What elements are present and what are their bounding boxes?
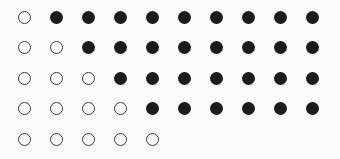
open-circle-marker <box>114 102 127 115</box>
filled-circle-marker <box>210 72 223 85</box>
filled-circle-marker <box>306 102 319 115</box>
filled-circle-marker <box>242 72 255 85</box>
filled-circle-marker <box>146 41 159 54</box>
open-circle-marker <box>18 11 31 24</box>
filled-circle-marker <box>242 41 255 54</box>
filled-circle-marker <box>306 72 319 85</box>
filled-circle-marker <box>274 102 287 115</box>
filled-circle-marker <box>178 72 191 85</box>
filled-circle-marker <box>146 11 159 24</box>
open-circle-marker <box>50 72 63 85</box>
filled-circle-marker <box>114 41 127 54</box>
filled-circle-marker <box>242 11 255 24</box>
filled-circle-marker <box>210 11 223 24</box>
open-circle-marker <box>18 41 31 54</box>
filled-circle-marker <box>178 41 191 54</box>
filled-circle-marker <box>274 11 287 24</box>
open-circle-marker <box>50 41 63 54</box>
filled-circle-marker <box>178 102 191 115</box>
open-circle-marker <box>114 133 127 146</box>
filled-circle-marker <box>50 11 63 24</box>
filled-circle-marker <box>306 41 319 54</box>
dot-matrix-figure <box>0 0 340 159</box>
filled-circle-marker <box>114 72 127 85</box>
filled-circle-marker <box>146 102 159 115</box>
filled-circle-marker <box>274 72 287 85</box>
open-circle-marker <box>82 72 95 85</box>
open-circle-marker <box>146 133 159 146</box>
open-circle-marker <box>50 102 63 115</box>
filled-circle-marker <box>82 11 95 24</box>
filled-circle-marker <box>306 11 319 24</box>
filled-circle-marker <box>178 11 191 24</box>
filled-circle-marker <box>114 11 127 24</box>
filled-circle-marker <box>242 102 255 115</box>
open-circle-marker <box>82 102 95 115</box>
open-circle-marker <box>18 133 31 146</box>
filled-circle-marker <box>210 102 223 115</box>
open-circle-marker <box>18 102 31 115</box>
filled-circle-marker <box>274 41 287 54</box>
filled-circle-marker <box>210 41 223 54</box>
filled-circle-marker <box>146 72 159 85</box>
open-circle-marker <box>82 133 95 146</box>
open-circle-marker <box>50 133 63 146</box>
filled-circle-marker <box>82 41 95 54</box>
open-circle-marker <box>18 72 31 85</box>
